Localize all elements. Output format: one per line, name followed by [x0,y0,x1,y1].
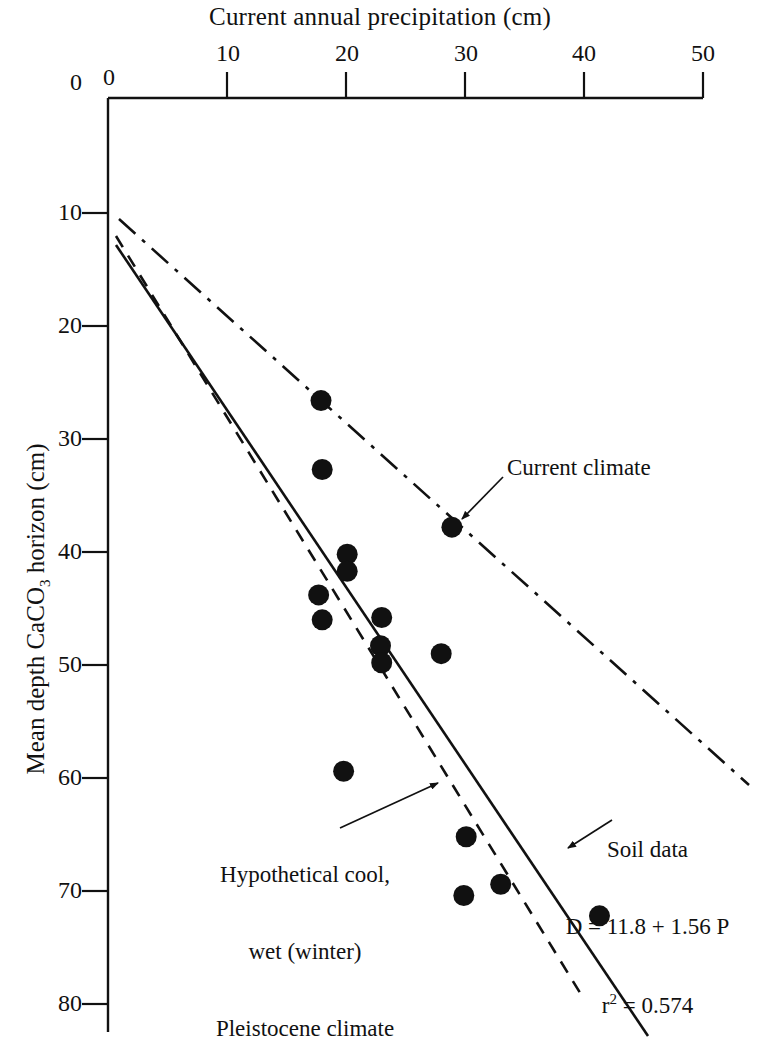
current-climate-line [119,219,749,785]
y-tick-marks [82,213,108,1004]
data-point [456,826,477,847]
data-point [589,905,610,926]
data-points-layer [308,390,610,926]
data-point [333,761,354,782]
x-tick-marks [227,72,703,98]
data-point [312,609,333,630]
data-point [371,652,392,673]
data-point [311,390,332,411]
hypothetical-climate-arrow [340,783,438,828]
data-point [431,643,452,664]
data-point [453,885,474,906]
data-point [308,584,329,605]
data-point [312,459,333,480]
data-point [490,874,511,895]
data-point [337,561,358,582]
current-climate-arrow [462,477,503,519]
plot-canvas [0,0,760,1042]
data-point [371,607,392,628]
chart-figure: Current annual precipitation (cm) Mean d… [0,0,760,1042]
soil-data-arrow [568,820,612,848]
data-point [441,517,462,538]
